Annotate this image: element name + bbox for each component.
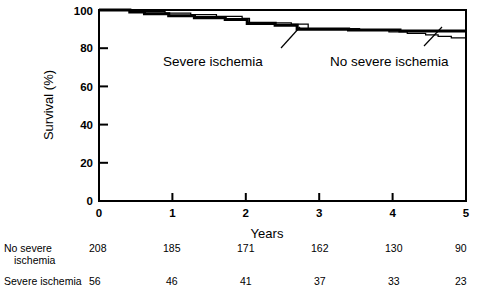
risk-value-no-severe-y3: 162 — [311, 242, 329, 254]
risk-value-no-severe-y0: 208 — [89, 242, 107, 254]
risk-value-severe-y2: 41 — [240, 275, 252, 287]
risk-value-no-severe-y5: 90 — [455, 242, 467, 254]
plot-frame — [99, 10, 466, 201]
x-tick-label-5: 5 — [463, 207, 470, 219]
survival-curve-figure: 0 20 40 60 80 100 0 1 2 3 4 5 Years Surv… — [0, 0, 487, 296]
x-axis-tick-labels: 0 1 2 3 4 5 — [96, 207, 470, 219]
y-axis-title: Survival (%) — [41, 70, 56, 140]
x-tick-label-4: 4 — [389, 207, 396, 219]
x-axis-title: Years — [251, 226, 284, 241]
y-tick-label-40: 40 — [80, 119, 93, 131]
risk-value-severe-y5: 23 — [455, 275, 467, 287]
x-tick-label-0: 0 — [96, 207, 102, 219]
y-tick-label-100: 100 — [74, 5, 93, 17]
y-tick-label-80: 80 — [80, 42, 93, 54]
y-tick-label-0: 0 — [87, 195, 93, 207]
annotation-no-severe-ischemia: No severe ischemia — [330, 54, 449, 69]
risk-table: No severe ischemia Severe ischemia 208 1… — [4, 242, 467, 287]
risk-row-label-severe: Severe ischemia — [4, 275, 82, 287]
risk-value-no-severe-y2: 171 — [237, 242, 255, 254]
leader-line-severe-ischemia — [281, 27, 300, 48]
x-tick-label-1: 1 — [169, 207, 176, 219]
x-tick-label-3: 3 — [316, 207, 322, 219]
x-tick-label-2: 2 — [243, 207, 249, 219]
y-tick-label-20: 20 — [80, 157, 93, 169]
risk-row-label-no-severe-line2: ischemia — [14, 254, 56, 266]
y-axis-tick-labels: 0 20 40 60 80 100 — [74, 5, 93, 207]
annotation-severe-ischemia: Severe ischemia — [163, 54, 263, 69]
x-axis-ticks — [99, 193, 466, 201]
risk-value-no-severe-y1: 185 — [163, 242, 181, 254]
risk-value-severe-y0: 56 — [89, 275, 101, 287]
risk-value-severe-y3: 37 — [314, 275, 326, 287]
risk-value-severe-y4: 33 — [388, 275, 400, 287]
risk-value-no-severe-y4: 130 — [385, 242, 403, 254]
y-tick-label-60: 60 — [80, 81, 93, 93]
chart-svg: 0 20 40 60 80 100 0 1 2 3 4 5 Years Surv… — [0, 0, 487, 296]
risk-value-severe-y1: 46 — [166, 275, 178, 287]
risk-row-label-no-severe-line1: No severe — [4, 242, 52, 254]
y-axis-ticks — [99, 10, 108, 201]
survival-curve-severe-ischemia — [99, 10, 466, 31]
